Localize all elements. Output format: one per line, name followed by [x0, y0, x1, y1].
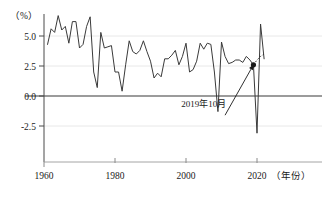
y-ticks: [39, 36, 44, 126]
x-tick-label-2020: 2020: [248, 171, 267, 181]
line-chart: 5.0 2.5 0.0 -2.5 （%） 1960 1980 2000 2020…: [0, 0, 330, 199]
x-axis-title: （年份）: [271, 170, 311, 181]
y-tick-label-0.0: 0.0: [24, 92, 36, 102]
chart-container: 5.0 2.5 0.0 -2.5 （%） 1960 1980 2000 2020…: [0, 0, 330, 199]
y-axis-unit-label: （%）: [10, 10, 38, 21]
x-tick-label-2000: 2000: [177, 171, 196, 181]
y-tick-label-minus-2.5: -2.5: [21, 122, 36, 132]
annotation-arrow: [225, 65, 253, 115]
y-tick-label-2.5: 2.5: [24, 62, 36, 72]
series-line-world-gdp-growth: [48, 16, 265, 134]
x-tick-label-1980: 1980: [106, 171, 125, 181]
x-ticks: [44, 158, 257, 167]
annotation-label-october-2019: 2019年10月: [181, 98, 226, 109]
gridlines: [44, 36, 322, 126]
x-tick-label-1960: 1960: [35, 171, 54, 181]
y-tick-label-5.0: 5.0: [24, 32, 36, 42]
